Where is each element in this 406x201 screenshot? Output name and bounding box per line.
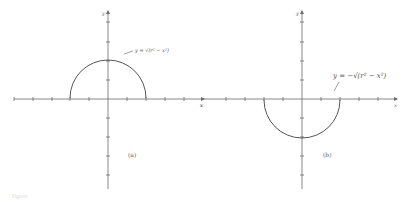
figure-caption: Figure (12, 193, 27, 200)
y-axis-label-b: y (295, 10, 299, 17)
x-axis-label-b-left: x (200, 102, 203, 108)
equation-label-b: y = −√(r² − x²) (332, 72, 387, 80)
panel-label-a: (a) (128, 151, 136, 158)
figure-canvas: y = √(r² − x²) y x (a) (0, 0, 406, 201)
leader-line-b (334, 82, 339, 91)
equation-label-a: y = √(r² − x²) (134, 47, 169, 54)
x-axis-label-b: x (394, 102, 397, 108)
panel-b: y = −√(r² − x²) y x x (b) (200, 10, 397, 189)
leader-line-a (124, 51, 133, 54)
panel-a: y = √(r² − x²) y x (a) (14, 10, 204, 189)
y-axis-label-a: y (101, 10, 105, 17)
panel-label-b: (b) (323, 151, 332, 158)
